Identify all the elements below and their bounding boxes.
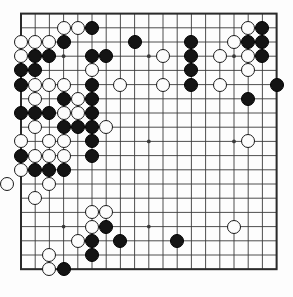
black-stone[interactable] [14, 149, 28, 163]
white-stone[interactable] [0, 177, 14, 191]
black-stone[interactable] [241, 92, 255, 106]
black-stone[interactable] [57, 163, 71, 177]
white-stone[interactable] [28, 149, 42, 163]
black-stone[interactable] [85, 248, 99, 262]
white-stone[interactable] [28, 78, 42, 92]
black-stone[interactable] [85, 234, 99, 248]
white-stone[interactable] [227, 35, 241, 49]
black-stone[interactable] [28, 163, 42, 177]
black-stone[interactable] [270, 78, 284, 92]
white-stone[interactable] [71, 21, 85, 35]
black-stone[interactable] [85, 21, 99, 35]
black-stone[interactable] [99, 220, 113, 234]
white-stone[interactable] [28, 92, 42, 106]
black-stone[interactable] [57, 92, 71, 106]
black-stone[interactable] [85, 78, 99, 92]
white-stone[interactable] [156, 78, 170, 92]
white-stone[interactable] [57, 149, 71, 163]
white-stone[interactable] [14, 163, 28, 177]
white-stone[interactable] [241, 21, 255, 35]
black-stone[interactable] [57, 35, 71, 49]
black-stone[interactable] [14, 106, 28, 120]
white-stone[interactable] [42, 78, 56, 92]
white-stone[interactable] [213, 49, 227, 63]
black-stone[interactable] [170, 234, 184, 248]
white-stone[interactable] [57, 106, 71, 120]
white-stone[interactable] [57, 21, 71, 35]
white-stone[interactable] [227, 220, 241, 234]
white-stone[interactable] [71, 106, 85, 120]
black-stone[interactable] [184, 78, 198, 92]
white-stone[interactable] [42, 149, 56, 163]
white-stone[interactable] [85, 220, 99, 234]
white-stone[interactable] [14, 35, 28, 49]
white-stone[interactable] [57, 134, 71, 148]
white-stone[interactable] [213, 78, 227, 92]
white-stone[interactable] [57, 78, 71, 92]
white-stone[interactable] [71, 92, 85, 106]
black-stone[interactable] [57, 262, 71, 276]
white-stone[interactable] [113, 78, 127, 92]
go-board-container [0, 0, 293, 297]
black-stone[interactable] [14, 78, 28, 92]
black-stone[interactable] [85, 149, 99, 163]
black-stone[interactable] [85, 106, 99, 120]
white-stone[interactable] [71, 234, 85, 248]
black-stone[interactable] [85, 92, 99, 106]
black-stone[interactable] [71, 120, 85, 134]
black-stone[interactable] [57, 120, 71, 134]
black-stone[interactable] [128, 35, 142, 49]
